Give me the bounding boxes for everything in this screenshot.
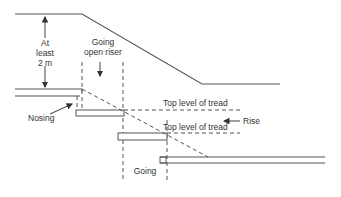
headroom-label-line3: 2 m xyxy=(38,58,52,68)
stair-diagram: At least 2 m Going open riser Nosing Top… xyxy=(0,0,341,197)
ceiling-soffit xyxy=(15,14,280,84)
going-open-riser-label-line1: Going xyxy=(92,37,115,47)
going-label: Going xyxy=(134,166,157,176)
bottom-floor xyxy=(160,157,325,163)
top-level-tread-label-2: Top level of tread xyxy=(163,122,228,132)
nosing-label: Nosing xyxy=(28,113,55,123)
going-open-riser-label-line2: open riser xyxy=(84,47,122,57)
headroom-label-line1: At xyxy=(41,38,50,48)
tread-3 xyxy=(118,133,167,140)
nosing-arrow-icon xyxy=(50,104,72,114)
headroom-label-line2: least xyxy=(36,48,55,58)
top-landing xyxy=(15,89,82,96)
top-level-tread-label-1: Top level of tread xyxy=(163,98,228,108)
rise-label: Rise xyxy=(243,116,260,126)
tread-2 xyxy=(76,110,124,116)
